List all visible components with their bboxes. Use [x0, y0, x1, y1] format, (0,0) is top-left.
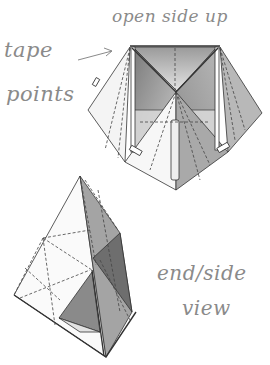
top-view-model	[88, 46, 262, 190]
diagram-canvas	[0, 0, 270, 365]
tape-arrow	[78, 48, 112, 60]
end-side-view-model	[14, 176, 136, 357]
